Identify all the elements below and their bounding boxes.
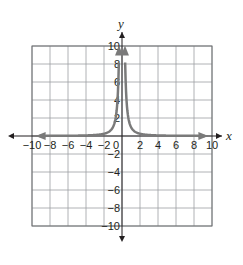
y-tick-label: −4 [107,166,120,178]
x-tick-label: −10 [23,139,42,151]
y-tick-label: −6 [107,184,120,196]
x-tick-label: −8 [44,139,57,151]
y-tick-label: −2 [107,148,120,160]
x-tick-label: 6 [173,139,179,151]
y-axis-label: y [116,16,124,31]
x-tick-label: −6 [62,139,75,151]
x-tick-label: 10 [206,139,218,151]
curve-right-branch [125,63,205,136]
y-tick-label: −8 [107,202,120,214]
x-axis-label: x [225,128,232,143]
y-tick-label: −10 [101,220,120,232]
x-tick-label: 4 [155,139,161,151]
x-tick-label: 8 [191,139,197,151]
curve-left-branch [39,63,119,136]
x-tick-label: 2 [137,139,143,151]
x-tick-label: −4 [80,139,93,151]
graph: −10−8−6−4−20246810108642−2−4−6−8−10 x y [0,0,243,265]
